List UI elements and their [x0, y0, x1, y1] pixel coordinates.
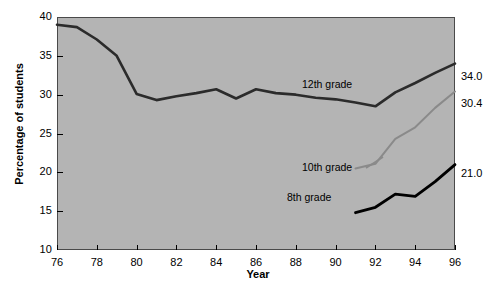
line-chart: Percentage of students Year 101520253035… [0, 0, 497, 292]
end-value-12th: 34.0 [461, 70, 482, 82]
series-annotation-10th: 10th grade [302, 161, 352, 173]
leader-line-10th [366, 157, 383, 168]
series-line [57, 25, 455, 107]
end-value-10th: 30.4 [461, 97, 482, 109]
series-line [356, 165, 456, 213]
series-line [356, 92, 456, 169]
series-annotation-12th: 12th grade [302, 78, 352, 90]
end-value-8th: 21.0 [461, 167, 482, 179]
series-annotation-8th: 8th grade [287, 191, 331, 203]
series-layer [0, 0, 497, 292]
